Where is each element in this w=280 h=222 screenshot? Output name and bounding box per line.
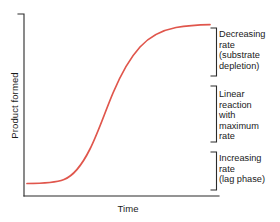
annotation-line: maximum bbox=[219, 121, 280, 132]
x-axis-label: Time bbox=[98, 203, 158, 214]
product-formed-curve bbox=[27, 25, 210, 184]
bracket-decreasing-rate bbox=[211, 28, 217, 76]
y-axis-label: Product formed bbox=[9, 69, 20, 143]
annotation-line: (substrate bbox=[219, 50, 280, 61]
bracket-linear-reaction bbox=[211, 86, 217, 142]
annotation-line: rate bbox=[219, 164, 280, 175]
annotation-decreasing-rate: Decreasing rate (substrate depletion) bbox=[219, 29, 280, 71]
annotation-line: Increasing bbox=[219, 153, 280, 164]
annotation-linear-reaction: Linear reaction with maximum rate bbox=[219, 89, 280, 142]
annotation-line: Decreasing bbox=[219, 29, 280, 40]
annotation-line: rate bbox=[219, 131, 280, 142]
annotation-line: Linear bbox=[219, 89, 280, 100]
bracket-increasing-rate bbox=[211, 152, 217, 190]
annotation-line: with bbox=[219, 110, 280, 121]
annotation-increasing-rate: Increasing rate (lag phase) bbox=[219, 153, 280, 185]
enzyme-kinetics-figure: Product formed Time Decreasing rate (sub… bbox=[0, 0, 280, 222]
annotation-line: rate bbox=[219, 40, 280, 51]
annotation-line: depletion) bbox=[219, 61, 280, 72]
annotation-line: (lag phase) bbox=[219, 174, 280, 185]
annotation-line: reaction bbox=[219, 100, 280, 111]
